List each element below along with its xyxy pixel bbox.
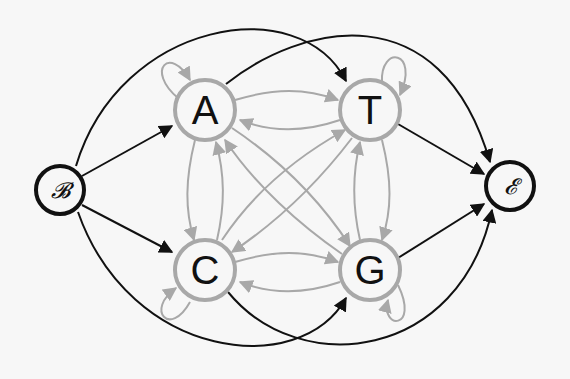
edge-T-C [232,138,352,252]
edge-A-T [235,91,338,100]
edge-G-E [398,204,484,258]
diagram-canvas: 𝓑 A T C G 𝓔 [0,0,570,379]
node-A-label: A [192,88,219,132]
terminal-edges [76,29,492,345]
edge-T-E [398,124,484,174]
node-A: A [175,80,235,140]
edge-T-A [240,120,340,129]
edge-G-A [225,140,342,254]
node-B: 𝓑 [36,166,84,214]
node-C-label: C [191,248,220,292]
node-E: 𝓔 [486,162,534,210]
edge-C-G [235,253,338,262]
edge-T-G [382,140,390,240]
node-G: G [340,240,400,300]
edge-G-T [354,142,360,240]
edge-C-T [222,130,345,240]
node-G-label: G [354,248,385,292]
markov-chain-diagram: 𝓑 A T C G 𝓔 [0,0,570,379]
edge-B-A [82,126,172,176]
edge-C-A [216,142,223,240]
edge-A-G [232,128,350,246]
node-C: C [175,240,235,300]
node-T: T [340,80,400,140]
edge-B-C [82,205,172,252]
edge-A-C [187,140,195,240]
edge-G-C [240,282,340,291]
node-T-label: T [358,88,382,132]
